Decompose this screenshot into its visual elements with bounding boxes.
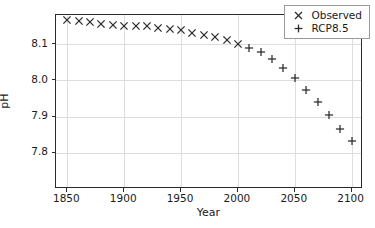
x-gridline (181, 15, 182, 187)
data-point-observed (187, 28, 197, 38)
data-point-rcp8-5 (324, 110, 334, 120)
x-gridline (238, 15, 239, 187)
legend-label-rcp85: RCP8.5 (307, 22, 348, 35)
x-gridline (295, 15, 296, 187)
y-gridline (56, 44, 361, 45)
x-axis-tick-label: 1950 (160, 192, 200, 204)
y-axis-tick-label: 8.1 (18, 38, 48, 49)
data-point-rcp8-5 (278, 63, 288, 73)
data-point-observed (108, 20, 118, 30)
data-point-observed (153, 23, 163, 33)
y-axis-title: pH (0, 93, 11, 108)
x-axis-tick (351, 188, 352, 192)
x-axis-tick (294, 188, 295, 192)
y-axis-tick-label: 7.8 (18, 146, 48, 157)
x-axis-title: Year (55, 206, 362, 219)
chart-legend: Observed RCP8.5 (284, 5, 370, 39)
legend-label-observed: Observed (307, 9, 362, 22)
plus-marker-icon (289, 24, 307, 33)
data-point-observed (199, 30, 209, 40)
y-gridline (56, 80, 361, 81)
y-axis-tick (52, 79, 56, 80)
data-point-rcp8-5 (313, 97, 323, 107)
data-point-rcp8-5 (267, 54, 277, 64)
data-point-observed (96, 19, 106, 29)
x-axis-tick-label: 2100 (331, 192, 371, 204)
x-gridline (67, 15, 68, 187)
y-gridline (56, 117, 361, 118)
x-axis-tick-label: 1850 (46, 192, 86, 204)
cross-marker-icon (289, 11, 307, 20)
y-axis-tick (52, 116, 56, 117)
data-point-observed (74, 16, 84, 26)
x-axis-tick (180, 188, 181, 192)
plot-area (55, 14, 362, 188)
legend-entry-rcp85: RCP8.5 (289, 22, 362, 35)
data-point-observed (210, 32, 220, 42)
x-axis-tick (66, 188, 67, 192)
data-point-observed (85, 17, 95, 27)
legend-entry-observed: Observed (289, 9, 362, 22)
x-axis-tick-label: 2050 (274, 192, 314, 204)
data-point-observed (142, 21, 152, 31)
y-axis-tick-label: 8.0 (18, 74, 48, 85)
x-gridline (352, 15, 353, 187)
y-gridline (56, 153, 361, 154)
data-point-rcp8-5 (335, 124, 345, 134)
data-point-rcp8-5 (301, 85, 311, 95)
x-axis-tick (123, 188, 124, 192)
x-gridline (124, 15, 125, 187)
x-axis-tick-label: 2000 (217, 192, 257, 204)
data-point-rcp8-5 (256, 47, 266, 57)
data-point-observed (131, 21, 141, 31)
y-axis-tick-label: 7.9 (18, 110, 48, 121)
data-point-observed (165, 24, 175, 34)
x-axis-tick (237, 188, 238, 192)
y-axis-tick (52, 152, 56, 153)
x-axis-tick-label: 1900 (103, 192, 143, 204)
ph-projection-chart: pH Year Observed RCP8.5 1850190019502000… (0, 0, 375, 228)
y-axis-tick (52, 43, 56, 44)
